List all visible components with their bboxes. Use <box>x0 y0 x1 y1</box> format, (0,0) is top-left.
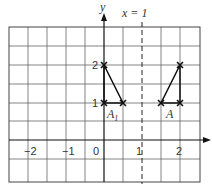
triangle-a-label: A <box>165 107 174 121</box>
y-axis-label: y <box>99 0 106 14</box>
x-tick-label: −1 <box>62 145 75 157</box>
x-tick-label: 1 <box>136 145 142 157</box>
x-tick-label: −2 <box>24 145 37 157</box>
x-tick-label: 0 <box>93 145 99 157</box>
mirror-line-label: x = 1 <box>121 6 147 20</box>
coordinate-grid: x = 1 y −2 −1 0 1 2 1 2 A1 A <box>0 0 212 187</box>
x-axis-arrow-icon <box>203 137 211 143</box>
x-tick-label: 2 <box>176 145 182 157</box>
triangle-a1-label: A1 <box>106 107 118 123</box>
y-axis-arrow-icon <box>101 13 107 21</box>
y-tick-label: 2 <box>92 59 98 71</box>
y-tick-label: 1 <box>92 97 98 109</box>
